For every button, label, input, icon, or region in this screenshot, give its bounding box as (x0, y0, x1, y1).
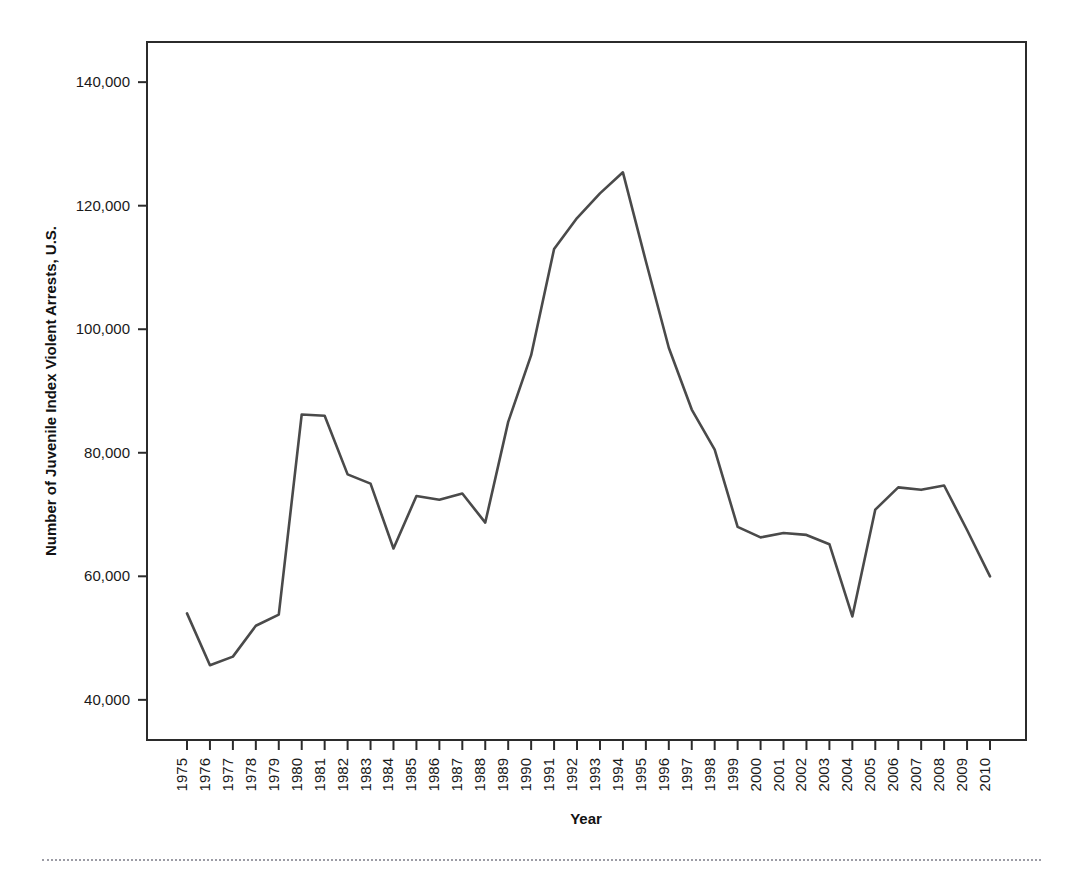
x-axis-tick-label: 1985 (402, 758, 419, 791)
x-axis-tick-label: 2001 (770, 758, 787, 791)
x-axis-tick-label: 1992 (563, 758, 580, 791)
x-axis-tick-label: 1991 (540, 758, 557, 791)
y-axis-tick-label: 140,000 (76, 73, 130, 90)
x-axis-tick-label: 1997 (678, 758, 695, 791)
x-axis-tick-label: 1988 (471, 758, 488, 791)
x-axis-tick-label: 1987 (448, 758, 465, 791)
x-axis-tick-label: 2003 (815, 758, 832, 791)
x-axis-tick-label: 1986 (425, 758, 442, 791)
x-axis-tick-label: 2008 (930, 758, 947, 791)
chart-page: 40,00060,00080,000100,000120,000140,000 … (0, 0, 1081, 873)
x-axis-tick-label: 1979 (265, 758, 282, 791)
x-axis-tick-label: 1977 (219, 758, 236, 791)
y-axis-tick-label: 120,000 (76, 197, 130, 214)
x-axis-tick-label: 2004 (838, 758, 855, 791)
x-axis-tick-label: 1999 (724, 758, 741, 791)
x-axis-tick-label: 2005 (861, 758, 878, 791)
x-axis-title: Year (570, 810, 602, 827)
x-axis-tick-label: 1975 (173, 758, 190, 791)
y-axis-tick-label: 40,000 (84, 691, 130, 708)
chart-canvas: 40,00060,00080,000100,000120,000140,000 … (0, 0, 1081, 845)
x-axis-tick-label: 1995 (632, 758, 649, 791)
y-axis-tick-label: 100,000 (76, 320, 130, 337)
x-axis-tick-label: 1996 (655, 758, 672, 791)
x-axis-tick-label: 2007 (907, 758, 924, 791)
footer-dotted-rule (42, 857, 1041, 861)
x-axis-tick-label: 2006 (884, 758, 901, 791)
x-axis-tick-label: 1998 (701, 758, 718, 791)
x-axis-tick-label: 1981 (311, 758, 328, 791)
chart-background (0, 0, 1081, 845)
x-axis-tick-label: 1984 (379, 758, 396, 791)
x-axis-tick-label: 2009 (953, 758, 970, 791)
x-axis-tick-label: 1982 (334, 758, 351, 791)
x-axis-tick-label: 2002 (792, 758, 809, 791)
y-axis-tick-label: 80,000 (84, 444, 130, 461)
x-axis-tick-label: 1976 (196, 758, 213, 791)
y-axis-tick-label: 60,000 (84, 567, 130, 584)
x-axis-tick-label: 1989 (494, 758, 511, 791)
x-axis-tick-label: 1993 (586, 758, 603, 791)
x-axis-tick-label: 1978 (242, 758, 259, 791)
line-chart-figure: 40,00060,00080,000100,000120,000140,000 … (0, 0, 1081, 845)
x-axis-tick-label: 1980 (288, 758, 305, 791)
x-axis-tick-label: 1994 (609, 758, 626, 791)
x-axis-tick-label: 2000 (747, 758, 764, 791)
y-axis-title: Number of Juvenile Index Violent Arrests… (42, 226, 59, 556)
x-axis-tick-label: 1990 (517, 758, 534, 791)
x-axis-tick-label: 2010 (976, 758, 993, 791)
x-axis-tick-label: 1983 (357, 758, 374, 791)
